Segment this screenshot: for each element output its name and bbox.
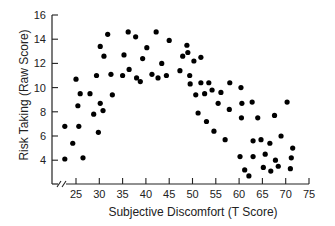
data-point xyxy=(159,61,164,66)
data-point xyxy=(87,91,92,96)
data-point xyxy=(250,100,255,105)
data-point xyxy=(193,92,198,97)
data-point xyxy=(273,158,278,163)
data-point xyxy=(76,124,81,129)
y-tick-label: 14 xyxy=(34,33,46,45)
data-point xyxy=(198,55,203,60)
data-point xyxy=(91,112,96,117)
data-point xyxy=(276,164,281,169)
data-point xyxy=(155,75,160,80)
data-point xyxy=(223,137,228,142)
data-point xyxy=(284,100,289,105)
x-tick-label: 60 xyxy=(233,188,245,200)
data-point xyxy=(216,101,221,106)
data-point xyxy=(258,137,263,142)
data-point xyxy=(110,92,115,97)
plot-area xyxy=(62,29,295,178)
data-point xyxy=(237,154,242,159)
data-point xyxy=(120,73,125,78)
data-point xyxy=(98,101,103,106)
data-point xyxy=(290,146,295,151)
axis-break-icon xyxy=(62,181,66,187)
data-point xyxy=(127,67,132,72)
data-point xyxy=(154,29,159,34)
x-tick-label: 55 xyxy=(210,188,222,200)
data-point xyxy=(121,52,126,57)
data-point xyxy=(75,103,80,108)
data-point xyxy=(73,77,78,82)
data-point xyxy=(188,81,193,86)
data-point xyxy=(78,91,83,96)
data-point xyxy=(246,173,251,178)
data-point xyxy=(239,101,244,106)
x-tick-label: 30 xyxy=(93,188,105,200)
scatter-plot: 468101214162530354045505560657075 Subjec… xyxy=(0,0,335,226)
data-point xyxy=(180,54,185,59)
data-point xyxy=(255,115,260,120)
y-tick-label: 4 xyxy=(40,154,46,166)
data-point xyxy=(211,129,216,134)
data-point xyxy=(202,91,207,96)
data-point xyxy=(206,80,211,85)
y-axis-title: Risk Taking (Raw Score) xyxy=(17,29,31,160)
data-point xyxy=(239,115,244,120)
x-tick-label: 65 xyxy=(256,188,268,200)
data-point xyxy=(272,113,277,118)
data-point xyxy=(105,32,110,37)
x-tick-label: 40 xyxy=(140,188,152,200)
data-point xyxy=(80,155,85,160)
data-point xyxy=(191,58,196,63)
data-point xyxy=(250,154,255,159)
x-tick-label: 35 xyxy=(116,188,128,200)
data-point xyxy=(218,90,223,95)
data-point xyxy=(278,133,283,138)
data-point xyxy=(209,87,214,92)
data-point xyxy=(149,72,154,77)
data-point xyxy=(134,75,139,80)
data-point xyxy=(144,45,149,50)
data-point xyxy=(133,34,138,39)
data-point xyxy=(101,54,106,59)
data-point xyxy=(227,80,232,85)
data-point xyxy=(227,107,232,112)
x-tick-label: 50 xyxy=(186,188,198,200)
y-tick-label: 6 xyxy=(40,130,46,142)
data-point xyxy=(242,167,247,172)
data-point xyxy=(164,73,169,78)
data-point xyxy=(167,38,172,43)
x-tick-label: 70 xyxy=(280,188,292,200)
data-point xyxy=(288,166,293,171)
data-point xyxy=(62,124,67,129)
data-point xyxy=(195,110,200,115)
y-tick-label: 16 xyxy=(34,9,46,21)
y-tick-label: 8 xyxy=(40,106,46,118)
x-axis-title: Subjective Discomfort (T Score) xyxy=(108,205,277,219)
x-tick-label: 25 xyxy=(70,188,82,200)
data-point xyxy=(204,119,209,124)
x-tick-label: 45 xyxy=(163,188,175,200)
data-point xyxy=(185,50,190,55)
data-point xyxy=(100,108,105,113)
data-point xyxy=(250,138,255,143)
data-point xyxy=(184,43,189,48)
data-point xyxy=(187,73,192,78)
data-point xyxy=(62,156,67,161)
data-point xyxy=(263,152,268,157)
data-point xyxy=(177,68,182,73)
x-tick-label: 75 xyxy=(303,188,315,200)
data-point xyxy=(96,130,101,135)
data-point xyxy=(261,165,266,170)
data-point xyxy=(98,44,103,49)
y-tick-label: 10 xyxy=(34,82,46,94)
data-point xyxy=(126,29,131,34)
data-point xyxy=(289,155,294,160)
data-point xyxy=(138,79,143,84)
data-point xyxy=(198,80,203,85)
data-point xyxy=(94,73,99,78)
data-point xyxy=(140,56,145,61)
data-point xyxy=(267,141,272,146)
data-point xyxy=(108,72,113,77)
data-point xyxy=(70,141,75,146)
y-tick-label: 12 xyxy=(34,57,46,69)
data-point xyxy=(268,168,273,173)
